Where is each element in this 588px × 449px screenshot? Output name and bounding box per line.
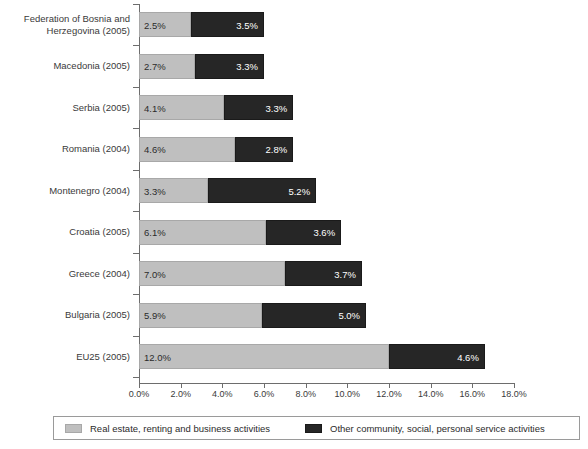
bar-segment-other-community: 4.6% — [389, 344, 485, 369]
y-axis-tick — [133, 128, 139, 129]
bar-value-label: 4.1% — [144, 102, 166, 113]
legend-swatch-icon-real-estate — [65, 424, 82, 433]
x-axis-tick — [347, 383, 348, 388]
bar-segment-other-community: 5.0% — [262, 303, 366, 328]
y-axis-tick — [133, 4, 139, 5]
x-axis-tick — [264, 383, 265, 388]
bar-value-label: 12.0% — [144, 351, 171, 362]
x-axis-tick-label: 2.0% — [159, 389, 203, 399]
legend-label-other-community: Other community, social, personal servic… — [330, 423, 545, 434]
bar-segment-real-estate: 12.0% — [139, 344, 389, 369]
bar-value-label: 4.6% — [457, 351, 479, 362]
bar-row: 12.0%4.6% — [0, 344, 588, 369]
x-axis-tick — [472, 383, 473, 388]
bar-value-label: 3.3% — [144, 185, 166, 196]
bar-segment-other-community: 3.3% — [195, 54, 264, 79]
bar-value-label: 3.6% — [313, 227, 335, 238]
x-axis-tick-label: 18.0% — [492, 389, 536, 399]
bar-value-label: 5.9% — [144, 310, 166, 321]
bar-value-label: 3.3% — [236, 61, 258, 72]
bar-value-label: 2.5% — [144, 19, 166, 30]
bar-row: 6.1%3.6% — [0, 220, 588, 245]
bar-value-label: 3.5% — [236, 19, 258, 30]
bar-value-label: 5.2% — [288, 185, 310, 196]
bar-row: 3.3%5.2% — [0, 178, 588, 203]
bar-segment-real-estate: 5.9% — [139, 303, 262, 328]
bar-segment-other-community: 2.8% — [235, 137, 293, 162]
bar-segment-real-estate: 2.5% — [139, 12, 191, 37]
y-axis-tick — [133, 87, 139, 88]
bar-value-label: 5.0% — [338, 310, 360, 321]
x-axis-tick-label: 10.0% — [325, 389, 369, 399]
bar-value-label: 3.7% — [334, 268, 356, 279]
bar-value-label: 2.7% — [144, 61, 166, 72]
bar-row: 7.0%3.7% — [0, 261, 588, 286]
legend-item-real-estate: Real estate, renting and business activi… — [65, 417, 270, 439]
bar-segment-real-estate: 6.1% — [139, 220, 266, 245]
bar-row: 4.6%2.8% — [0, 137, 588, 162]
bar-segment-real-estate: 2.7% — [139, 54, 195, 79]
x-axis-tick — [306, 383, 307, 388]
x-axis-tick-label: 16.0% — [450, 389, 494, 399]
bar-value-label: 4.6% — [144, 144, 166, 155]
x-axis-tick — [389, 383, 390, 388]
y-axis-tick — [133, 45, 139, 46]
bar-segment-other-community: 3.6% — [266, 220, 341, 245]
bar-segment-real-estate: 4.6% — [139, 137, 235, 162]
x-axis-tick-label: 0.0% — [117, 389, 161, 399]
bar-value-label: 7.0% — [144, 268, 166, 279]
x-axis-tick-label: 6.0% — [242, 389, 286, 399]
x-axis-tick-label: 8.0% — [284, 389, 328, 399]
x-axis-tick-label: 14.0% — [409, 389, 453, 399]
y-axis-tick — [133, 211, 139, 212]
legend-label-real-estate: Real estate, renting and business activi… — [90, 423, 270, 434]
x-axis-tick-label: 12.0% — [367, 389, 411, 399]
bar-value-label: 2.8% — [266, 144, 288, 155]
x-axis-tick — [139, 383, 140, 388]
x-axis-tick — [431, 383, 432, 388]
bar-segment-other-community: 3.3% — [224, 95, 293, 120]
bar-row: 2.5%3.5% — [0, 12, 588, 37]
y-axis-tick — [133, 294, 139, 295]
plot-area: Federation of Bosnia and Herzegovina (20… — [0, 0, 588, 400]
bar-row: 5.9%5.0% — [0, 303, 588, 328]
y-axis-tick — [133, 253, 139, 254]
bar-segment-real-estate: 4.1% — [139, 95, 224, 120]
bar-segment-other-community: 3.7% — [285, 261, 362, 286]
stacked-bar-chart: Federation of Bosnia and Herzegovina (20… — [0, 0, 588, 449]
y-axis-tick — [133, 170, 139, 171]
bar-value-label: 6.1% — [144, 227, 166, 238]
legend-item-other-community: Other community, social, personal servic… — [305, 417, 545, 439]
bar-value-label: 3.3% — [266, 102, 288, 113]
y-axis-tick — [133, 377, 139, 378]
bar-row: 4.1%3.3% — [0, 95, 588, 120]
legend-swatch-icon-other-community — [305, 424, 322, 433]
x-axis-tick — [514, 383, 515, 388]
bar-segment-real-estate: 3.3% — [139, 178, 208, 203]
chart-legend: Real estate, renting and business activi… — [53, 416, 580, 440]
x-axis-tick-label: 4.0% — [200, 389, 244, 399]
bar-segment-other-community: 5.2% — [208, 178, 316, 203]
x-axis-tick — [222, 383, 223, 388]
y-axis-tick — [133, 336, 139, 337]
bar-segment-other-community: 3.5% — [191, 12, 264, 37]
x-axis-line — [139, 383, 514, 384]
bar-row: 2.7%3.3% — [0, 54, 588, 79]
bar-segment-real-estate: 7.0% — [139, 261, 285, 286]
x-axis-tick — [181, 383, 182, 388]
